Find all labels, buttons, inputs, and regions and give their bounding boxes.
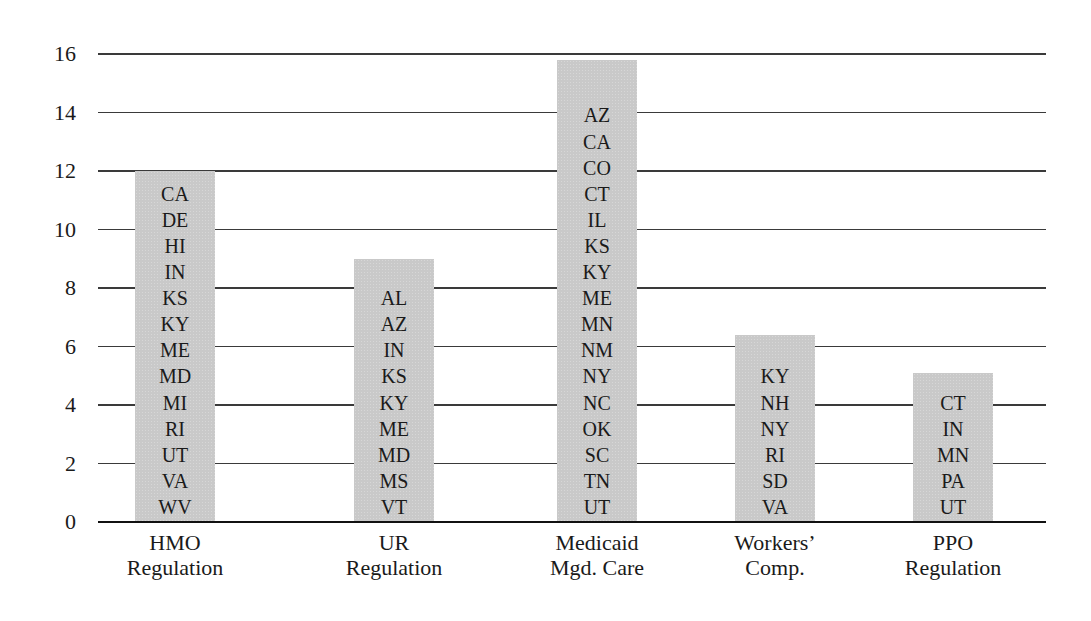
bar-state-label: VA <box>762 494 788 520</box>
bar-state-label: ME <box>160 337 190 363</box>
bar-state-label: KY <box>761 363 790 389</box>
y-tick-label: 0 <box>36 511 76 533</box>
bar-state-label: NM <box>581 337 613 363</box>
x-category-label-line: Regulation <box>95 555 255 580</box>
bar-state-label: MS <box>380 468 409 494</box>
bar-0: CADEHIINKSKYMEMDMIRIUTVAWV <box>135 171 215 522</box>
bar-2: AZCACOCTILKSKYMEMNNMNYNCOKSCTNUT <box>557 60 637 522</box>
bar-state-label: CT <box>940 390 966 416</box>
x-category-label: URRegulation <box>314 530 474 580</box>
x-category-label-line: Medicaid <box>517 530 677 555</box>
bar-state-label: RI <box>165 416 185 442</box>
x-category-label-line: Regulation <box>314 555 474 580</box>
bar-chart: 0246810121416CADEHIINKSKYMEMDMIRIUTVAWVH… <box>0 0 1091 621</box>
bar-state-label: TN <box>584 468 611 494</box>
bar-state-label: KY <box>161 311 190 337</box>
x-category-label-line: Regulation <box>873 555 1033 580</box>
bar-state-label: MI <box>163 390 187 416</box>
bar-state-label: KY <box>380 390 409 416</box>
bar-state-label: KY <box>583 259 612 285</box>
bar-state-label: AZ <box>584 102 611 128</box>
bar-state-label: DE <box>162 207 189 233</box>
bar-3: KYNHNYRISDVA <box>735 335 815 522</box>
bar-state-label: AL <box>381 285 408 311</box>
x-category-label-line: Workers’ <box>695 530 855 555</box>
bar-state-label: PA <box>941 468 965 494</box>
bar-state-label: MN <box>937 442 969 468</box>
x-category-label: Workers’Comp. <box>695 530 855 580</box>
bar-state-label: NY <box>761 416 790 442</box>
x-category-label-line: HMO <box>95 530 255 555</box>
bar-state-label: UT <box>584 494 611 520</box>
bar-state-label: IL <box>588 207 607 233</box>
bar-state-label: CA <box>583 129 611 155</box>
bar-state-label: NH <box>761 390 790 416</box>
y-tick-label: 4 <box>36 394 76 416</box>
bar-state-label: KS <box>162 285 188 311</box>
x-category-label-line: Mgd. Care <box>517 555 677 580</box>
bar-state-label: MD <box>378 442 410 468</box>
bar-state-label: IN <box>942 416 963 442</box>
y-tick-label: 16 <box>36 43 76 65</box>
bar-state-label: AZ <box>381 311 408 337</box>
y-tick-label: 12 <box>36 160 76 182</box>
bar-state-label: UT <box>940 494 967 520</box>
bar-state-label: KS <box>381 363 407 389</box>
x-category-label-line: Comp. <box>695 555 855 580</box>
x-category-label: PPORegulation <box>873 530 1033 580</box>
bar-1: ALAZINKSKYMEMDMSVT <box>354 259 434 522</box>
x-axis-line <box>98 521 1046 523</box>
bar-state-label: NC <box>583 390 611 416</box>
bar-state-label: WV <box>158 494 191 520</box>
bar-state-label: ME <box>379 416 409 442</box>
x-category-label: MedicaidMgd. Care <box>517 530 677 580</box>
bar-state-label: MN <box>581 311 613 337</box>
bar-state-label: ME <box>582 285 612 311</box>
y-tick-label: 6 <box>36 336 76 358</box>
bar-state-label: IN <box>383 337 404 363</box>
y-tick-label: 2 <box>36 453 76 475</box>
bar-state-label: VA <box>162 468 188 494</box>
bar-state-label: RI <box>765 442 785 468</box>
y-tick-label: 14 <box>36 102 76 124</box>
gridline <box>98 53 1046 55</box>
y-tick-label: 8 <box>36 277 76 299</box>
bar-state-label: MD <box>159 363 191 389</box>
bar-state-label: UT <box>162 442 189 468</box>
bar-state-label: OK <box>583 416 612 442</box>
bar-state-label: CT <box>584 181 610 207</box>
bar-state-label: SD <box>762 468 788 494</box>
bar-state-label: NY <box>583 363 612 389</box>
bar-state-label: SC <box>585 442 609 468</box>
x-category-label: HMORegulation <box>95 530 255 580</box>
bar-state-label: IN <box>164 259 185 285</box>
bar-state-label: VT <box>381 494 408 520</box>
bar-state-label: HI <box>164 233 185 259</box>
bar-state-label: KS <box>584 233 610 259</box>
x-category-label-line: PPO <box>873 530 1033 555</box>
bar-4: CTINMNPAUT <box>913 373 993 522</box>
y-tick-label: 10 <box>36 219 76 241</box>
x-category-label-line: UR <box>314 530 474 555</box>
bar-state-label: CO <box>583 155 611 181</box>
bar-state-label: CA <box>161 181 189 207</box>
